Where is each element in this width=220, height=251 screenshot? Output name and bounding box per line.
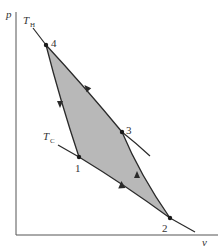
point-3-label: 3 [126, 124, 132, 136]
point-4-label: 4 [51, 37, 57, 49]
cycle-region [46, 45, 170, 218]
point-4 [44, 43, 48, 47]
y-axis-label: p [5, 8, 12, 20]
cold-isotherm-subscript: C [50, 137, 55, 145]
pv-diagram: p v 4 3 2 1 T H T C [0, 0, 220, 251]
hot-isotherm-label: T [23, 14, 30, 26]
point-3 [120, 130, 124, 134]
point-1-label: 1 [75, 162, 81, 174]
point-2 [168, 216, 172, 220]
cold-isotherm-continuation [170, 218, 195, 232]
point-2-label: 2 [162, 222, 168, 234]
x-axis-label: v [202, 236, 207, 248]
hot-isotherm-line [33, 28, 46, 45]
cold-isotherm-label: T [43, 130, 50, 142]
hot-isotherm-subscript: H [30, 21, 35, 29]
point-1 [77, 155, 81, 159]
